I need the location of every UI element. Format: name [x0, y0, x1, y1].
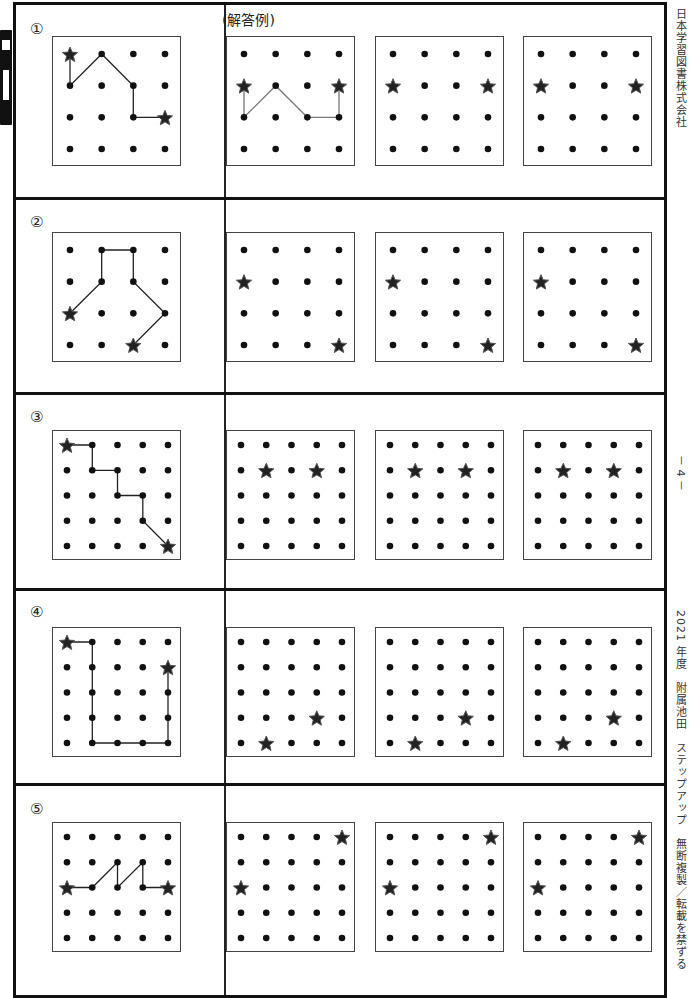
practice-grid[interactable] — [226, 232, 355, 362]
grid-dot — [241, 146, 248, 153]
practice-grid[interactable] — [523, 36, 652, 166]
grid-dot — [437, 834, 444, 841]
grid-dot — [610, 689, 617, 696]
grid-dot — [462, 740, 469, 747]
grid-dot — [488, 442, 495, 449]
answer-example-label: (解答例) — [222, 9, 275, 29]
grid-dot — [488, 884, 495, 891]
grid-dot — [114, 664, 121, 671]
grid-dot — [387, 639, 394, 646]
grid-dot — [453, 114, 460, 121]
example-grid[interactable] — [52, 36, 181, 166]
grid-dot — [585, 492, 592, 499]
grid-dot — [98, 342, 105, 349]
grid-dot — [610, 543, 617, 550]
grid-dot — [114, 543, 121, 550]
grid-dot — [241, 51, 248, 58]
grid-dot — [263, 714, 270, 721]
grid-dot — [139, 740, 146, 747]
grid-dot — [453, 51, 460, 58]
grid-dot — [263, 639, 270, 646]
grid-dot — [535, 664, 542, 671]
grid-dot — [98, 114, 105, 121]
grid-dot — [437, 884, 444, 891]
row-divider — [16, 197, 664, 200]
problem-number: ④ — [30, 603, 43, 621]
star-icon — [628, 338, 643, 353]
grid-dot — [569, 82, 576, 89]
grid-dot — [162, 310, 169, 317]
example-grid[interactable] — [52, 822, 181, 952]
grid-dot — [585, 689, 592, 696]
route-line — [70, 250, 165, 345]
practice-grid[interactable] — [375, 822, 504, 952]
grid-dot — [560, 664, 567, 671]
grid-dot — [238, 467, 245, 474]
star-icon — [59, 881, 74, 896]
grid-dot — [535, 714, 542, 721]
grid-dot — [139, 689, 146, 696]
answer-example-grid[interactable] — [226, 36, 355, 166]
grid-dot — [130, 146, 137, 153]
practice-grid[interactable] — [226, 627, 355, 757]
grid-dot — [462, 639, 469, 646]
grid-dot — [139, 935, 146, 942]
star-icon — [382, 881, 397, 896]
star-icon — [157, 110, 172, 125]
practice-grid[interactable] — [523, 430, 652, 560]
grid-dot — [98, 310, 105, 317]
grid-dot — [263, 543, 270, 550]
grid-dot — [437, 639, 444, 646]
practice-grid[interactable] — [375, 36, 504, 166]
grid-dot — [636, 517, 643, 524]
grid-dot — [139, 543, 146, 550]
grid-dot — [601, 247, 608, 254]
grid-dot — [339, 639, 346, 646]
grid-dot — [453, 247, 460, 254]
grid-dot — [390, 342, 397, 349]
grid-dot — [89, 909, 96, 916]
example-grid[interactable] — [52, 627, 181, 757]
grid-dot — [412, 543, 419, 550]
grid-dot — [272, 247, 279, 254]
grid-dot — [636, 467, 643, 474]
grid-dot — [412, 689, 419, 696]
grid-dot — [67, 278, 74, 285]
grid-dot — [585, 740, 592, 747]
example-grid[interactable] — [52, 430, 181, 560]
star-icon — [334, 830, 349, 845]
grid-dot — [387, 935, 394, 942]
practice-grid[interactable] — [375, 232, 504, 362]
practice-grid[interactable] — [375, 430, 504, 560]
grid-dot — [421, 51, 428, 58]
grid-dot — [569, 51, 576, 58]
practice-grid[interactable] — [523, 627, 652, 757]
grid-dot — [304, 114, 311, 121]
grid-dot — [89, 442, 96, 449]
grid-dot — [288, 909, 295, 916]
grid-dot — [64, 909, 71, 916]
grid-dot — [89, 884, 96, 891]
grid-dot — [288, 664, 295, 671]
grid-dot — [288, 689, 295, 696]
grid-dot — [238, 740, 245, 747]
grid-dot — [610, 834, 617, 841]
practice-grid[interactable] — [523, 232, 652, 362]
grid-dot — [610, 884, 617, 891]
grid-dot — [114, 442, 121, 449]
grid-dot — [98, 51, 105, 58]
grid-dot — [610, 664, 617, 671]
practice-grid[interactable] — [226, 430, 355, 560]
grid-dot — [165, 492, 172, 499]
grid-dot — [339, 543, 346, 550]
grid-dot — [412, 834, 419, 841]
grid-dot — [485, 278, 492, 285]
grid-dot — [313, 834, 320, 841]
grid-dot — [139, 664, 146, 671]
practice-grid[interactable] — [226, 822, 355, 952]
practice-grid[interactable] — [375, 627, 504, 757]
example-grid[interactable] — [52, 232, 181, 362]
star-icon — [59, 635, 74, 650]
grid-dot — [601, 310, 608, 317]
practice-grid[interactable] — [523, 822, 652, 952]
